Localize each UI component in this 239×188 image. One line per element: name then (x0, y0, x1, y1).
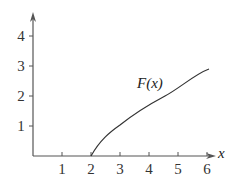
x-axis-label: x (217, 145, 225, 161)
y-tick-2: 2 (17, 88, 25, 104)
x-tick-5: 5 (174, 161, 182, 177)
y-tick-1: 1 (17, 118, 25, 134)
x-tick-4: 4 (145, 161, 153, 177)
chart: 1 2 3 4 5 6 x 1 2 3 4 F(x) (0, 0, 239, 188)
x-tick-1: 1 (58, 161, 66, 177)
y-tick-3: 3 (17, 58, 25, 74)
x-tick-labels: 1 2 3 4 5 6 (58, 161, 211, 177)
y-tick-4: 4 (17, 28, 25, 44)
curve-label: F(x) (136, 75, 163, 92)
y-tick-labels: 1 2 3 4 (17, 28, 25, 134)
x-tick-2: 2 (87, 161, 95, 177)
x-tick-6: 6 (203, 161, 211, 177)
x-tick-3: 3 (116, 161, 124, 177)
